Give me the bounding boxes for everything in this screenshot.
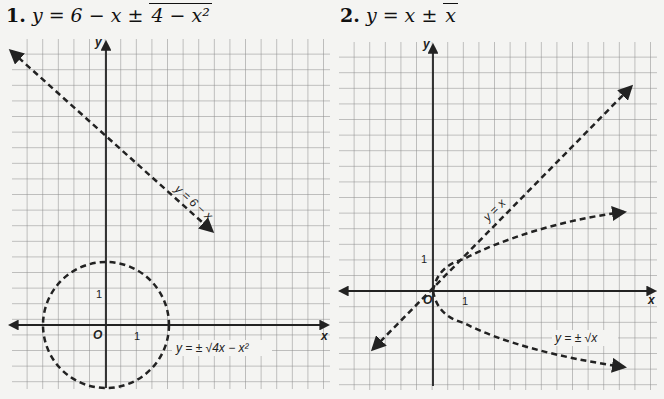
origin-label: O bbox=[423, 293, 433, 307]
graph-1: y x O 1 1 y = ± √4x − x² y = 6 − x bbox=[10, 35, 330, 389]
y-tick-label: 1 bbox=[96, 288, 102, 300]
graph-2: y x O 1 1 y = ± √x y = x bbox=[339, 37, 657, 390]
grid bbox=[12, 39, 330, 389]
origin-label: O bbox=[93, 328, 103, 342]
graphs: y x O 1 1 y = ± √4x − x² y = 6 − x y x O… bbox=[0, 0, 664, 399]
circle-label: y = ± √4x − x² bbox=[175, 341, 250, 355]
x-tick-label: 1 bbox=[462, 295, 468, 307]
y-tick-label: 1 bbox=[421, 253, 427, 265]
sqrt-label: y = ± √x bbox=[554, 331, 598, 345]
y-axis-label: y bbox=[422, 37, 431, 51]
x-axis-label: x bbox=[320, 329, 329, 343]
x-axis-label: x bbox=[647, 293, 656, 307]
x-tick-label: 1 bbox=[134, 330, 140, 342]
y-axis-label: y bbox=[94, 35, 103, 49]
